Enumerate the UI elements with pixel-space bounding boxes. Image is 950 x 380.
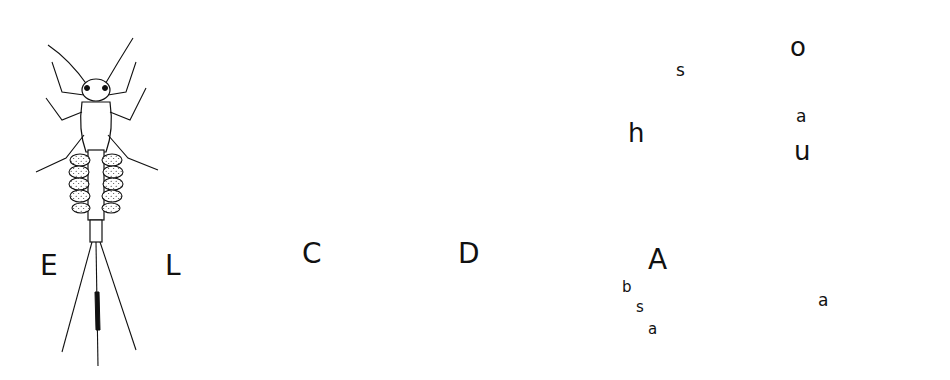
label-part-h: h (628, 120, 644, 146)
label-part-a: a (648, 322, 657, 337)
illustration-canvas (0, 0, 950, 380)
label-specimen-l: L (165, 252, 181, 280)
label-specimen-e: E (40, 252, 58, 280)
label-specimen-a: A (648, 246, 667, 274)
label-gill-top-a: a (796, 108, 806, 125)
label-part-s-top: s (676, 62, 685, 79)
label-part-s-bottom: s (636, 300, 644, 315)
label-gill-top: o (790, 34, 806, 60)
label-specimen-d: D (458, 240, 480, 268)
label-gill-bottom-a: a (818, 292, 828, 309)
label-part-b: b (622, 280, 632, 295)
label-gill-bottom: u (794, 138, 810, 164)
label-specimen-c: C (302, 240, 322, 268)
specimen-e-drawing (36, 38, 158, 366)
